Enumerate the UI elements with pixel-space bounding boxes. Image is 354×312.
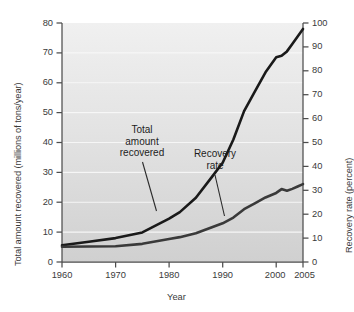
y-right-tick-label: 40	[312, 162, 322, 171]
y-right-tick-label: 70	[312, 90, 322, 99]
y-axis-left-title: Total amount recovered (millions of tons…	[13, 83, 23, 267]
x-tick-label: 1970	[96, 271, 136, 280]
y-right-tick-label: 80	[312, 66, 322, 75]
x-tick-label: 1960	[42, 271, 82, 280]
y-right-tick-label: 10	[312, 234, 322, 243]
y-right-tick-label: 30	[312, 186, 322, 195]
y-left-tick-label: 20	[26, 198, 53, 207]
x-axis	[62, 262, 303, 268]
y-right-tick-label: 50	[312, 138, 322, 147]
x-tick-label: 1980	[149, 271, 189, 280]
y-right-tick-label: 0	[312, 258, 317, 267]
y-left-tick-label: 40	[26, 138, 53, 147]
x-tick-label: 1990	[203, 271, 243, 280]
y-axis-left	[57, 23, 63, 262]
y-left-tick-label: 80	[26, 19, 53, 28]
y-left-tick-label: 0	[26, 258, 53, 267]
annotation-recovery-rate: Recovery rate	[187, 148, 243, 171]
y-right-tick-label: 60	[312, 114, 322, 123]
y-left-tick-label: 60	[26, 78, 53, 87]
y-left-tick-label: 50	[26, 108, 53, 117]
y-right-tick-label: 90	[312, 42, 322, 51]
y-right-tick-label: 100	[312, 19, 328, 28]
y-axis-right	[303, 23, 309, 262]
y-right-tick-label: 20	[312, 210, 322, 219]
annotation-total-amount-recovered: Total amount recovered	[111, 124, 173, 159]
y-axis-right-title: Recovery rate (percent)	[344, 158, 354, 253]
y-left-tick-label: 10	[26, 228, 53, 237]
y-left-tick-label: 70	[26, 48, 53, 57]
y-left-tick-label: 30	[26, 168, 53, 177]
x-tick-label: 2005	[285, 271, 325, 280]
x-axis-title: Year	[0, 292, 353, 302]
